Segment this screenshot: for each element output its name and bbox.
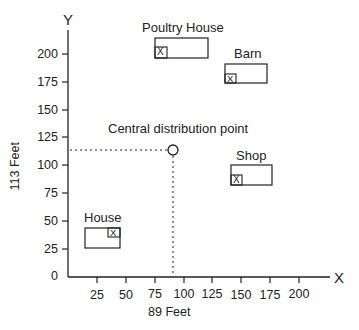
y-axis-ticks xyxy=(62,54,68,249)
shop-x-marker: X xyxy=(233,175,240,185)
x-tick-label: 100 xyxy=(169,288,199,301)
y-tick-label: 50 xyxy=(28,215,58,228)
poultry-house-x-marker: X xyxy=(157,47,164,57)
poultry-house-label: Poultry House xyxy=(142,21,224,34)
x-tick-label: 200 xyxy=(284,288,314,301)
barn-x-marker: X xyxy=(227,74,233,84)
house-label: House xyxy=(84,211,122,224)
x-axis-letter: X xyxy=(334,270,344,285)
shop-label: Shop xyxy=(236,149,266,162)
house-x-marker: X xyxy=(110,228,116,238)
x-tick-label: 175 xyxy=(255,289,285,302)
central-distribution-point-marker xyxy=(168,145,178,155)
y-tick-label: 100 xyxy=(28,159,58,172)
x-axis-title: 89 Feet xyxy=(148,306,190,319)
x-axis-ticks xyxy=(97,277,299,283)
y-tick-label: 25 xyxy=(28,243,58,256)
y-tick-label: 150 xyxy=(28,104,58,117)
y-tick-label: 75 xyxy=(28,187,58,200)
x-tick-label: 75 xyxy=(140,288,170,301)
x-tick-label: 150 xyxy=(226,289,256,302)
barn-label: Barn xyxy=(234,47,261,60)
x-tick-label: 50 xyxy=(111,289,141,302)
y-tick-label: 200 xyxy=(28,48,58,61)
y-axis-letter: Y xyxy=(63,12,73,27)
central-distribution-point-label: Central distribution point xyxy=(108,122,248,135)
y-tick-label: 175 xyxy=(28,76,58,89)
y-tick-label: 0 xyxy=(28,270,58,283)
x-tick-label: 125 xyxy=(197,288,227,301)
y-tick-label: 125 xyxy=(28,131,58,144)
x-tick-label: 25 xyxy=(82,289,112,302)
y-axis-title: 113 Feet xyxy=(9,141,22,191)
